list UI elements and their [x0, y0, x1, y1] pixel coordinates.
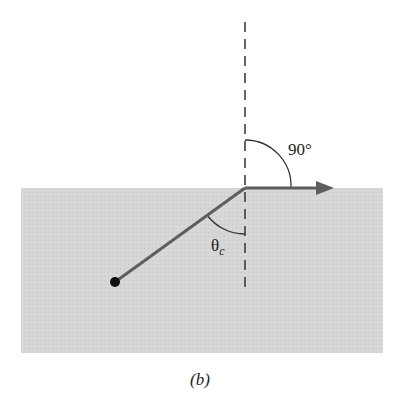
total-internal-reflection-diagram: 90° θc (b) [0, 0, 394, 405]
theta-symbol: θ [211, 236, 219, 255]
right-angle-label: 90° [288, 140, 312, 159]
point-source [110, 277, 120, 287]
figure-caption: (b) [190, 370, 210, 389]
right-angle-arc [245, 140, 291, 188]
theta-subscript: c [219, 244, 225, 258]
medium-region [21, 188, 383, 353]
